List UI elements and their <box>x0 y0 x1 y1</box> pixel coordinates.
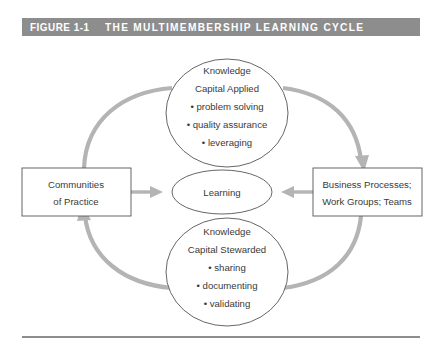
right-box-shape <box>313 168 422 216</box>
arrowhead-communities-to-learning <box>150 186 163 198</box>
bottom-ellipse-bullet-3: • validating <box>204 298 251 309</box>
right-box-line-1: Business Processes; <box>322 179 411 190</box>
left-box-shape <box>22 168 131 216</box>
arc-knowledge-stewarded-to-communities <box>85 216 172 288</box>
right-box-line-2: Work Groups; Teams <box>322 196 412 207</box>
figure-container: FIGURE 1-1 THE MULTIMEMBERSHIP LEARNING … <box>0 0 444 348</box>
center-ellipse-label: Learning <box>203 187 240 198</box>
cycle-diagram: Knowledge Capital Applied • problem solv… <box>0 0 444 348</box>
top-ellipse-heading-line-1: Knowledge <box>203 65 250 76</box>
top-ellipse-bullet-2: • quality assurance <box>187 119 268 130</box>
left-box-line-2: of Practice <box>53 196 98 207</box>
arc-knowledge-applied-to-business-processes <box>283 88 361 160</box>
top-ellipse-bullet-3: • leveraging <box>202 137 252 148</box>
left-box-line-1: Communities <box>48 179 104 190</box>
arc-business-processes-to-knowledge-stewarded <box>283 216 361 288</box>
arrowhead-business-processes-to-learning <box>281 186 294 198</box>
top-ellipse-heading-line-2: Capital Applied <box>195 83 259 94</box>
arc-communities-to-knowledge-applied <box>84 88 172 168</box>
bottom-ellipse-heading-line-2: Capital Stewarded <box>188 244 266 255</box>
bottom-ellipse-heading-line-1: Knowledge <box>203 226 250 237</box>
bottom-ellipse-bullet-2: • documenting <box>197 280 258 291</box>
top-ellipse-bullet-1: • problem solving <box>190 101 263 112</box>
bottom-ellipse-bullet-1: • sharing <box>208 262 246 273</box>
bottom-divider-rule <box>22 336 420 338</box>
